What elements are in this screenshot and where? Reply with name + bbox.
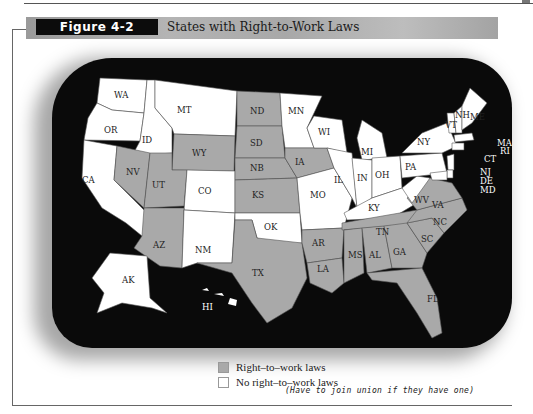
us-map-svg: WA OR CA ID MT WY NV UT CO AZ NM ND SD N… [52,58,512,348]
svg-text:ID: ID [142,135,152,145]
svg-text:MN: MN [288,106,305,116]
svg-text:AR: AR [311,238,325,248]
svg-text:RI: RI [500,146,510,156]
svg-text:MO: MO [310,190,326,200]
svg-text:MS: MS [348,250,363,260]
svg-text:AL: AL [368,250,381,260]
frame-line-left [12,29,13,405]
svg-text:NV: NV [126,167,140,177]
svg-text:MD: MD [480,185,496,195]
svg-text:MI: MI [361,147,373,157]
frame-line-bottom [12,405,512,406]
svg-text:IL: IL [334,175,343,185]
svg-text:SD: SD [250,138,263,148]
svg-text:NB: NB [250,163,264,173]
svg-text:AZ: AZ [152,240,165,250]
svg-text:CT: CT [484,154,497,164]
svg-text:OR: OR [104,125,118,135]
svg-text:NH: NH [455,110,470,120]
svg-text:PA: PA [405,162,417,172]
svg-text:SC: SC [421,234,433,244]
legend-swatch-white [218,377,229,388]
state-MA [454,133,474,142]
state-KS [235,178,300,213]
svg-text:WY: WY [192,148,207,158]
legend-item-right-to-work: Right–to–work laws [218,360,338,374]
svg-text:KS: KS [252,190,264,200]
state-DE [447,170,453,178]
svg-text:VT: VT [444,120,457,130]
svg-text:CA: CA [82,175,96,185]
svg-text:UT: UT [152,180,165,190]
svg-text:NM: NM [195,245,211,255]
state-NJ [447,154,454,170]
us-map: WA OR CA ID MT WY NV UT CO AZ NM ND SD N… [52,58,512,348]
svg-text:FL: FL [427,294,439,304]
figure-label: Figure 4-2 [36,19,158,35]
svg-text:WI: WI [318,127,330,137]
svg-text:ND: ND [250,106,264,116]
svg-text:IA: IA [295,157,305,167]
state-ME [462,88,487,130]
svg-text:ME: ME [470,112,485,122]
svg-text:GA: GA [393,247,407,257]
page-top-rule [24,3,533,4]
svg-text:TN: TN [376,227,390,237]
svg-text:TX: TX [252,268,265,278]
svg-text:OK: OK [264,222,278,232]
svg-text:AK: AK [121,275,135,285]
svg-text:IN: IN [357,173,368,183]
svg-text:NY: NY [417,137,430,147]
handwritten-note: (Have to join union if they have one) [285,386,474,395]
svg-text:WA: WA [114,90,129,100]
legend-swatch-gray [218,362,229,373]
figure-title: States with Right-to-Work Laws [167,19,359,35]
svg-text:OH: OH [375,170,389,180]
state-CT [452,143,464,150]
svg-text:MT: MT [177,105,192,115]
svg-text:WV: WV [414,195,430,205]
svg-text:HI: HI [202,302,213,312]
state-NM [182,210,235,268]
svg-text:LA: LA [317,264,330,274]
svg-text:KY: KY [368,203,380,213]
svg-text:NC: NC [433,217,447,227]
page-corner-mark [522,0,530,3]
svg-text:CO: CO [198,186,212,196]
svg-text:VA: VA [431,200,445,210]
